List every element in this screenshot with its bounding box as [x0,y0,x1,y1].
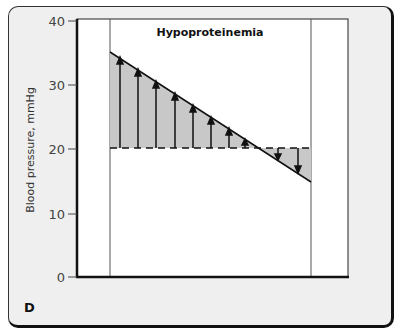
chart: 40 30 20 10 0 Blood pressure, mmHg Hypop… [0,0,401,336]
y-tick-10: 10 [48,207,65,222]
chart-title: Hypoproteinemia [156,26,263,39]
y-tick-40: 40 [48,14,65,29]
y-tick-20: 20 [48,142,65,157]
panel-label: D [24,300,35,315]
y-axis-label: Blood pressure, mmHg [24,87,37,213]
y-tick-30: 30 [48,78,65,93]
y-ticks [68,21,77,277]
y-tick-0: 0 [57,270,65,285]
